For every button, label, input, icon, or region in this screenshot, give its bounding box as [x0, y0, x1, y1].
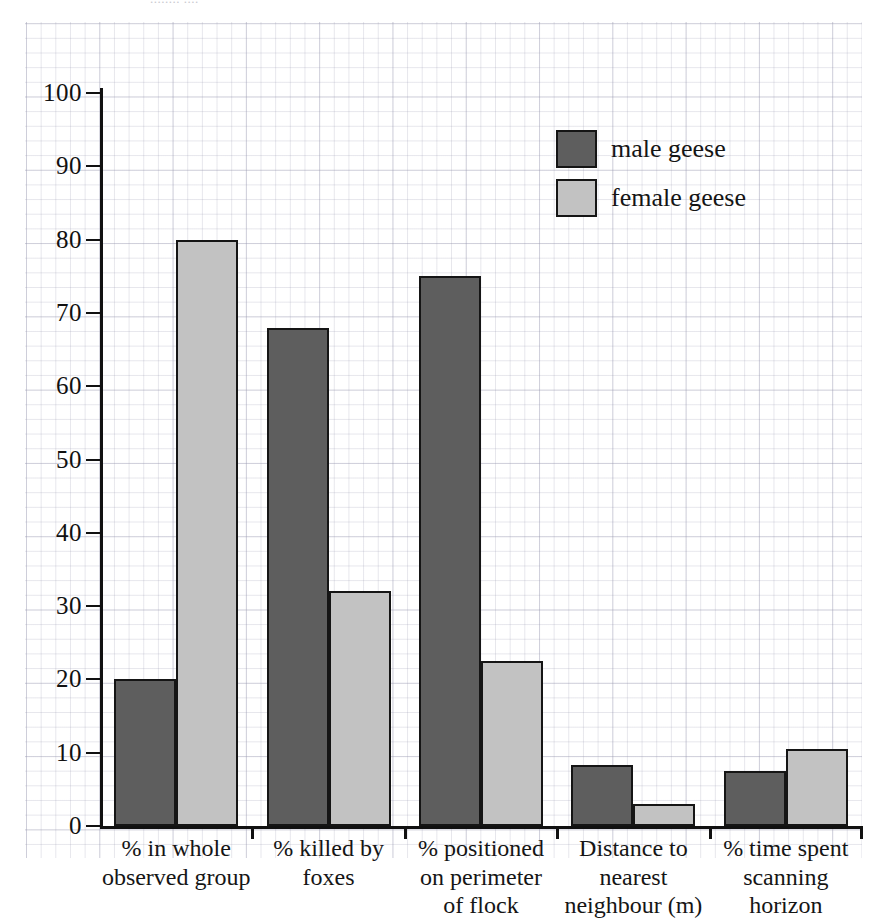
y-axis-label-wrap: 50 [0, 447, 82, 472]
x-axis-label-line: Distance to [557, 834, 709, 863]
y-axis-tick-70 [86, 312, 100, 314]
x-axis-label-line: scanning [710, 863, 862, 892]
x-axis-line [100, 826, 862, 829]
y-axis-label-10: 10 [10, 740, 82, 765]
bar-female-group-1 [176, 240, 238, 826]
legend-item-female: female geese [556, 175, 816, 220]
y-axis-label-100: 100 [10, 80, 82, 105]
bar-male-group-4 [571, 765, 633, 826]
y-axis-label-wrap: 20 [0, 666, 82, 691]
bar-chart-figure: ........ .... 0102030405060708090100 mal… [0, 0, 874, 924]
y-axis-label-wrap: 10 [0, 740, 82, 765]
y-axis-tick-60 [86, 385, 100, 387]
bar-female-group-3 [481, 661, 543, 826]
y-axis-tick-90 [86, 165, 100, 167]
x-axis-label-group-4: Distance tonearestneighbour (m) [557, 834, 709, 920]
x-axis-label-line: nearest [557, 863, 709, 892]
x-axis-label-line: foxes [252, 863, 404, 892]
bar-female-group-5 [786, 749, 848, 826]
y-axis-label-wrap: 90 [0, 153, 82, 178]
x-axis-label-line: observed group [100, 863, 252, 892]
legend-label-male: male geese [611, 135, 726, 163]
chart-legend: male geesefemale geese [556, 126, 816, 224]
x-axis-label-group-3: % positionedon perimeterof flock [405, 834, 557, 920]
y-axis-label-80: 80 [10, 227, 82, 252]
y-axis-tick-10 [86, 752, 100, 754]
y-axis-tick-100 [86, 92, 100, 94]
bar-male-group-2 [267, 328, 329, 826]
x-axis-label-group-2: % killed byfoxes [252, 834, 404, 891]
legend-item-male: male geese [556, 126, 816, 171]
y-axis-tick-20 [86, 678, 100, 680]
y-axis-label-20: 20 [10, 666, 82, 691]
x-axis-label-line: % positioned [405, 834, 557, 863]
legend-label-female: female geese [611, 184, 746, 212]
y-axis-tick-50 [86, 459, 100, 461]
x-axis-label-line: % in whole [100, 834, 252, 863]
y-axis-label-wrap: 60 [0, 373, 82, 398]
y-axis-label-40: 40 [10, 520, 82, 545]
bar-male-group-1 [114, 679, 176, 826]
y-axis-label-60: 60 [10, 373, 82, 398]
y-axis-label-0: 0 [10, 813, 82, 838]
bar-male-group-5 [724, 771, 786, 826]
y-axis-label-90: 90 [10, 153, 82, 178]
y-axis-label-70: 70 [10, 300, 82, 325]
y-axis-label-30: 30 [10, 593, 82, 618]
y-axis-label-wrap: 100 [0, 80, 82, 105]
y-axis-tick-0 [86, 825, 100, 827]
y-axis-label-wrap: 0 [0, 813, 82, 838]
y-axis-label-wrap: 30 [0, 593, 82, 618]
x-axis-label-line: % killed by [252, 834, 404, 863]
y-axis-tick-80 [86, 239, 100, 241]
x-axis-label-group-1: % in wholeobserved group [100, 834, 252, 891]
x-axis-label-line: of flock [405, 891, 557, 920]
y-axis-tick-30 [86, 605, 100, 607]
bar-female-group-4 [633, 804, 695, 826]
caption-fragment: ........ .... [150, 0, 350, 3]
x-axis-label-group-5: % time spentscanninghorizon [710, 834, 862, 920]
legend-swatch-female [556, 179, 597, 217]
x-axis-label-line: on perimeter [405, 863, 557, 892]
y-axis-label-wrap: 70 [0, 300, 82, 325]
y-axis-label-50: 50 [10, 447, 82, 472]
x-axis-category-labels: % in wholeobserved group% killed byfoxes… [100, 834, 862, 924]
x-axis-label-line: horizon [710, 891, 862, 920]
x-axis-label-line: % time spent [710, 834, 862, 863]
y-axis-label-wrap: 80 [0, 227, 82, 252]
x-axis-label-line: neighbour (m) [557, 891, 709, 920]
y-axis-label-wrap: 40 [0, 520, 82, 545]
bar-female-group-2 [329, 591, 391, 826]
y-axis-tick-40 [86, 532, 100, 534]
legend-swatch-male [556, 130, 597, 168]
bar-male-group-3 [419, 276, 481, 826]
